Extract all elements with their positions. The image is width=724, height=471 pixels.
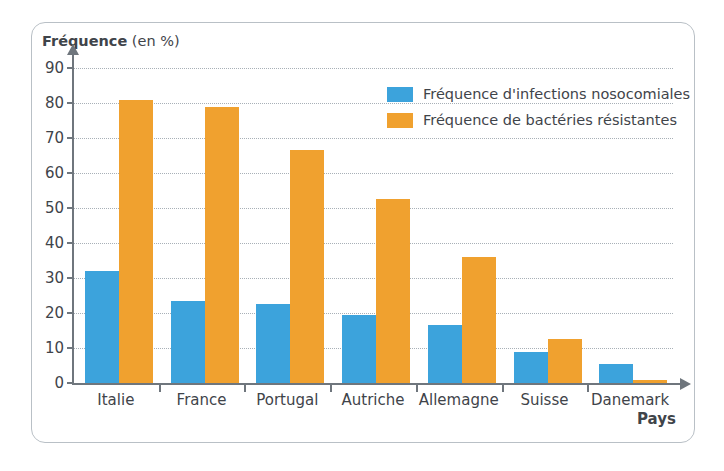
x-axis-title: Pays — [637, 410, 676, 428]
y-tick-label: 40 — [45, 234, 64, 252]
legend-item-1: Fréquence de bactéries résistantes — [387, 109, 690, 131]
x-category-label: Danemark — [587, 391, 673, 409]
bar-group — [244, 68, 330, 383]
legend-swatch-blue-icon — [387, 87, 413, 102]
y-tick-label: 50 — [45, 199, 64, 217]
legend-label-1: Fréquence de bactéries résistantes — [423, 112, 677, 128]
legend-item-0: Fréquence d'infections nosocomiales — [387, 83, 690, 105]
bar-orange — [290, 150, 324, 383]
y-tick-label: 10 — [45, 339, 64, 357]
y-axis-title-strong: Fréquence — [42, 33, 127, 49]
bar-blue — [428, 325, 462, 383]
chart-legend: Fréquence d'infections nosocomiales Fréq… — [387, 83, 690, 135]
y-axis-title: Fréquence (en %) — [42, 33, 180, 49]
y-tick-label: 30 — [45, 269, 64, 287]
bar-blue — [171, 301, 205, 383]
x-category-label: Italie — [73, 391, 159, 409]
y-tick-label: 20 — [45, 304, 64, 322]
legend-swatch-orange-icon — [387, 113, 413, 128]
legend-label-0: Fréquence d'infections nosocomiales — [423, 86, 690, 102]
bar-orange — [205, 107, 239, 384]
y-tick-label: 90 — [45, 59, 64, 77]
y-axis-title-unit: (en %) — [127, 33, 179, 49]
bar-orange — [633, 380, 667, 384]
x-category-label: Portugal — [244, 391, 330, 409]
x-category-label: Autriche — [330, 391, 416, 409]
bar-group — [159, 68, 245, 383]
bar-blue — [85, 271, 119, 383]
bar-orange — [119, 100, 153, 384]
y-axis-arrow-icon — [67, 44, 79, 55]
x-category-label: Suisse — [502, 391, 588, 409]
y-tick-label: 60 — [45, 164, 64, 182]
bar-blue — [342, 315, 376, 383]
y-tick-label: 70 — [45, 129, 64, 147]
chart-frame: Fréquence (en %) 9080706050403020100 Ita… — [31, 22, 695, 443]
bar-orange — [462, 257, 496, 383]
x-axis-arrow-icon — [680, 378, 691, 390]
bar-blue — [256, 304, 290, 383]
bar-group — [73, 68, 159, 383]
bar-orange — [376, 199, 410, 383]
y-tick-label: 80 — [45, 94, 64, 112]
x-category-label: France — [159, 391, 245, 409]
bar-orange — [548, 339, 582, 383]
bar-blue — [599, 364, 633, 383]
y-tick-label: 0 — [54, 374, 64, 392]
x-category-label: Allemagne — [416, 391, 502, 409]
bar-blue — [514, 352, 548, 384]
